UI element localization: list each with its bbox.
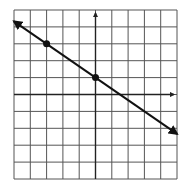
- coordinate-plane: [0, 0, 182, 187]
- data-point: [92, 74, 99, 81]
- data-point: [43, 40, 50, 47]
